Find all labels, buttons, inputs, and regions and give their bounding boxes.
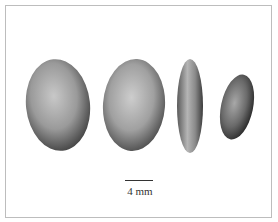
seed-face-view-2: [101, 57, 167, 153]
scale-label: 4 mm: [120, 185, 160, 197]
scale-bar: [125, 180, 153, 181]
seed-face-view-1: [24, 57, 92, 153]
figure: 4 mm: [0, 0, 278, 222]
seed-oblique-view: [218, 72, 256, 142]
seed-edge-view: [175, 57, 205, 155]
